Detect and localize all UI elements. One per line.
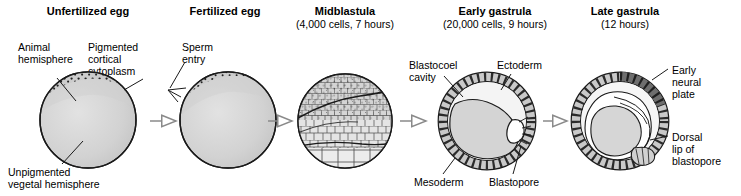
early-gastrula-diagram xyxy=(438,72,536,174)
development-stages-figure: Unfertilized egg Fertilized egg Midblast… xyxy=(0,0,741,196)
leader-pigmented-cortex xyxy=(124,79,143,90)
leader-neural-plate xyxy=(652,69,668,80)
blastopore-opening xyxy=(507,120,524,143)
leader-mesoderm xyxy=(443,158,455,174)
diagram-artwork xyxy=(0,0,741,196)
fertilized-egg-diagram xyxy=(168,58,288,168)
midblastula-diagram xyxy=(296,72,396,176)
leader-sperm-entry xyxy=(170,62,185,88)
late-gastrula-diagram xyxy=(571,69,669,170)
unfertilized-egg-diagram xyxy=(30,60,147,168)
